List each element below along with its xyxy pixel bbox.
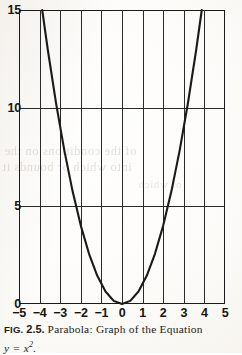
caption-text: Parabola: Graph of the Equation [48,323,203,335]
y-tick-label-15: 15 [7,3,21,17]
x-tick-label-2: 2 [152,306,174,320]
x-tick-label-0: 0 [111,306,133,320]
x-tick-label--3: −3 [49,306,71,320]
caption-equation: y = x2. [4,338,240,355]
x-tick-label-3: 3 [173,306,195,320]
curve-path-y-equals-x-squared [42,10,202,304]
x-tick-label--2: −2 [70,306,92,320]
x-tick-label--1: −1 [90,306,112,320]
equation-equals: = [13,342,21,354]
equation-lhs: y [4,342,9,354]
caption-prefix: FIG. [4,324,23,335]
x-tick-label--5: −5 [8,306,30,320]
caption-number: 2.5. [26,323,44,335]
x-tick-label-1: 1 [132,306,154,320]
equation-period: . [33,342,36,354]
y-tick-label-10: 10 [7,101,21,115]
parabola-curve [19,10,225,304]
x-tick-label-5: 5 [214,306,236,320]
y-tick-label-5: 5 [14,199,21,213]
figure-caption: FIG. 2.5. Parabola: Graph of the Equatio… [4,322,240,355]
x-tick-label-4: 4 [193,306,215,320]
x-tick-label--4: −4 [29,306,51,320]
